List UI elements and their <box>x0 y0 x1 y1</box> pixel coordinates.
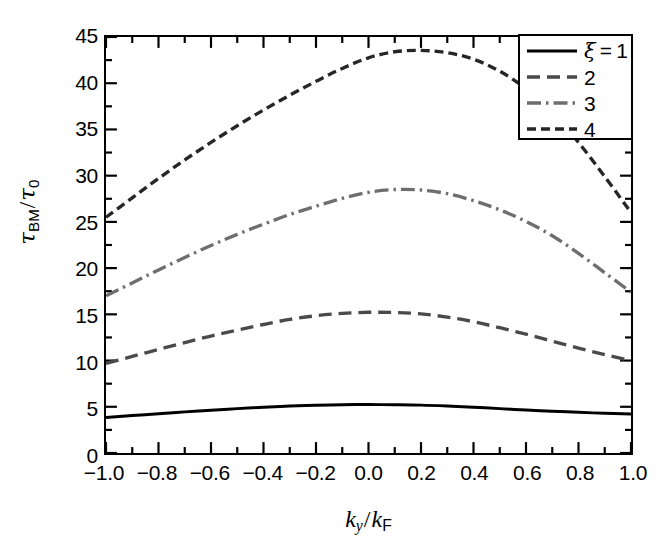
legend-entry-4[interactable]: 4 <box>520 116 631 142</box>
y-axis-bm-subscript: BM <box>25 209 42 232</box>
x-axis-y-subscript: y <box>356 517 363 534</box>
y-axis-zero-subscript: 0 <box>25 180 42 188</box>
y-tick-label: 15 <box>56 305 98 326</box>
x-tick-label: 1.0 <box>601 462 665 483</box>
y-axis-tick-labels: 051015202530354045 <box>50 35 98 455</box>
y-tick-label: 30 <box>56 165 98 186</box>
legend-label-2: 2 <box>584 67 596 88</box>
x-axis-kf-symbol: k <box>372 506 383 532</box>
legend-swatch-2 <box>526 70 578 84</box>
series-line-1 <box>106 405 631 418</box>
x-axis-f-subscript: F <box>382 517 392 534</box>
series-line-3 <box>106 189 631 296</box>
y-tick-label: 35 <box>56 118 98 139</box>
series-line-2 <box>106 312 631 363</box>
legend-swatch-4 <box>526 122 578 136</box>
y-tick-label: 10 <box>56 351 98 372</box>
y-tick-label: 45 <box>56 25 98 46</box>
legend-swatch-1 <box>526 44 578 58</box>
x-axis-tick-labels: −1.0−0.8−0.6−0.4−0.20.00.20.40.60.81.0 <box>104 462 633 492</box>
y-tick-label: 40 <box>56 71 98 92</box>
legend-label-3: 3 <box>584 93 596 114</box>
x-axis-slash: / <box>363 506 372 532</box>
y-axis-tau0-symbol: τ <box>14 188 40 201</box>
y-axis-slash: / <box>15 201 40 209</box>
legend-label-4: 4 <box>584 119 596 140</box>
y-tick-label: 5 <box>56 398 98 419</box>
legend-entry-1[interactable]: ξ = 1 <box>520 38 631 64</box>
legend-entry-2[interactable]: 2 <box>520 64 631 90</box>
x-axis-title: ky/kF <box>104 505 633 535</box>
legend-swatch-3 <box>526 96 578 110</box>
y-tick-label: 20 <box>56 258 98 279</box>
y-tick-label: 25 <box>56 211 98 232</box>
legend-box: ξ = 1234 <box>518 34 633 140</box>
x-axis-k-symbol: k <box>345 506 356 532</box>
y-axis-title: τBM/τ0 <box>14 142 42 282</box>
legend-entry-3[interactable]: 3 <box>520 90 631 116</box>
legend-label-1: ξ = 1 <box>584 40 628 62</box>
y-axis-tau-symbol: τ <box>14 232 40 245</box>
figure-root: 051015202530354045 −1.0−0.8−0.6−0.4−0.20… <box>0 0 667 553</box>
